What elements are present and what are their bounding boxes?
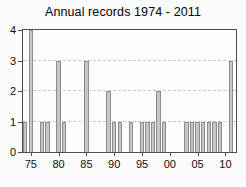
chart-title: Annual records 1974 - 2011 [0, 5, 246, 19]
x-axis-tick-95 [142, 153, 143, 156]
x-axis-tick-90 [114, 153, 115, 156]
y-axis-tick-4 [18, 30, 22, 31]
bar-1999 [162, 122, 166, 153]
bar-1995 [140, 122, 144, 153]
x-axis-tick-80 [59, 153, 60, 156]
bar-2008 [212, 122, 216, 153]
x-tick-label-75: 75 [20, 158, 42, 170]
y-tick-label-0: 0 [2, 146, 16, 158]
bar-2007 [207, 122, 211, 153]
bar-1981 [62, 122, 66, 153]
y-axis-tick-2 [18, 91, 22, 92]
bar-2011 [229, 61, 233, 153]
y-tick-label-2: 2 [2, 85, 16, 97]
bar-2009 [218, 122, 222, 153]
bar-1977 [40, 122, 44, 153]
y-tick-label-3: 3 [2, 55, 16, 67]
x-tick-label-80: 80 [48, 158, 70, 170]
x-tick-label-05: 05 [187, 158, 209, 170]
bar-1991 [118, 122, 122, 153]
x-tick-label-90: 90 [103, 158, 125, 170]
bar-1974 [23, 122, 27, 153]
y-tick-label-1: 1 [2, 116, 16, 128]
x-axis-tick-85 [86, 153, 87, 156]
plot-area [22, 29, 237, 153]
bar-1980 [56, 61, 60, 153]
bar-2004 [190, 122, 194, 153]
bar-1975 [29, 30, 33, 152]
x-axis-tick-75 [31, 153, 32, 156]
bar-1998 [156, 91, 160, 152]
annual-records-figure: Annual records 1974 - 2011 0123475808590… [0, 0, 246, 187]
bar-1993 [129, 122, 133, 153]
x-tick-label-10: 10 [214, 158, 236, 170]
bar-2003 [184, 122, 188, 153]
bar-1978 [45, 122, 49, 153]
x-tick-label-85: 85 [75, 158, 97, 170]
y-tick-label-4: 4 [2, 24, 16, 36]
y-axis-tick-0 [18, 152, 22, 153]
x-axis-tick-10 [225, 153, 226, 156]
plot-inner [23, 30, 236, 152]
y-axis-tick-3 [18, 61, 22, 62]
bar-1985 [84, 61, 88, 153]
x-axis-tick-00 [170, 153, 171, 156]
bar-1996 [145, 122, 149, 153]
bar-1990 [112, 122, 116, 153]
bar-1989 [106, 91, 110, 152]
x-axis-tick-05 [198, 153, 199, 156]
gridline-y3 [23, 60, 236, 61]
gridline-y2 [23, 90, 236, 91]
y-axis-tick-1 [18, 122, 22, 123]
bar-2006 [201, 122, 205, 153]
x-tick-label-00: 00 [159, 158, 181, 170]
bar-2005 [195, 122, 199, 153]
x-tick-label-95: 95 [131, 158, 153, 170]
bar-1997 [151, 122, 155, 153]
